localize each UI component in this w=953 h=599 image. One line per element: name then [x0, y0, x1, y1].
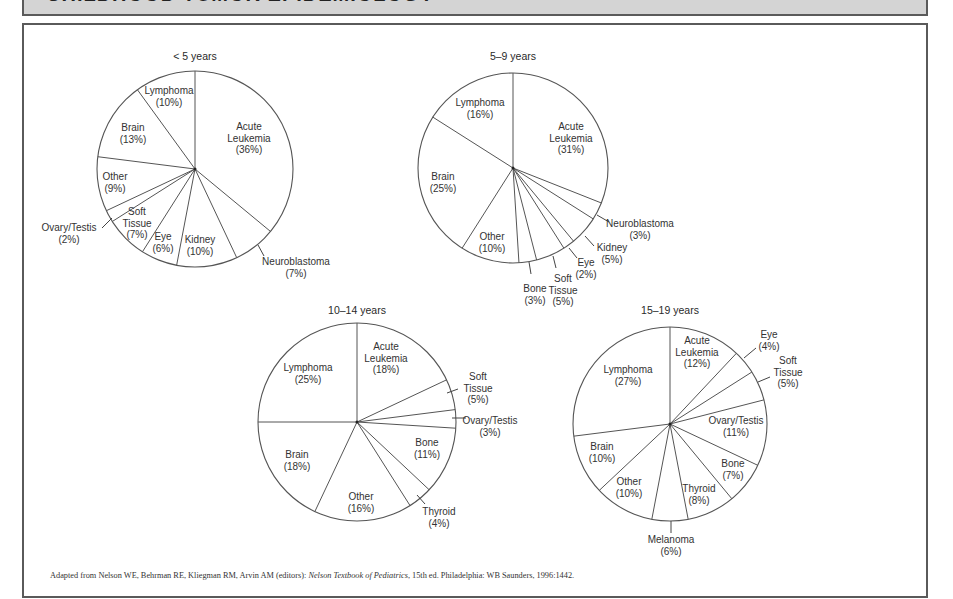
- pie-charts: < 5 yearsAcuteLeukemia(36%)Neuroblastoma…: [0, 0, 953, 599]
- slice-label: Thyroid(4%): [422, 506, 455, 529]
- slice-label: Neuroblastoma(7%): [262, 256, 330, 279]
- slice-label: Bone(11%): [414, 437, 440, 460]
- pie-center: [194, 168, 197, 171]
- slice-label: Eye(6%): [152, 231, 173, 254]
- citation-prefix: Adapted from Nelson WE, Behrman RE, Klie…: [50, 571, 308, 580]
- label-leader-line: [258, 245, 264, 256]
- slice-label: Other(16%): [348, 491, 375, 514]
- slice-label: Melanoma(6%): [648, 534, 695, 557]
- slice-label: Kidney(5%): [597, 242, 628, 265]
- pie-center: [669, 423, 672, 426]
- pie-title: 5–9 years: [490, 50, 536, 62]
- label-leader-line: [744, 348, 756, 358]
- pie-chart-under-5-years: < 5 yearsAcuteLeukemia(36%)Neuroblastoma…: [41, 50, 330, 279]
- slice-label: Other(9%): [102, 171, 128, 194]
- label-leader-line: [102, 218, 112, 228]
- pie-chart-10-14-years: 10–14 yearsAcuteLeukemia(18%)SoftTissue(…: [258, 304, 518, 529]
- slice-label: SoftTissue(5%): [773, 355, 803, 389]
- pie-chart-5-9-years: 5–9 yearsAcuteLeukemia(31%)Neuroblastoma…: [418, 50, 674, 307]
- label-leader-line: [569, 248, 577, 258]
- pie-chart-15-19-years: 15–19 yearsAcuteLeukemia(12%)Eye(4%)Soft…: [573, 304, 803, 557]
- slice-label: Bone(7%): [721, 458, 745, 481]
- slice-label: SoftTissue(5%): [463, 371, 493, 405]
- pie-center: [356, 421, 359, 424]
- slice-label: Bone(3%): [523, 283, 547, 306]
- pie-center: [512, 167, 515, 170]
- slice-label: Brain(18%): [284, 449, 311, 472]
- source-citation: Adapted from Nelson WE, Behrman RE, Klie…: [50, 571, 574, 580]
- citation-suffix: , 15th ed. Philadelphia: WB Saunders, 19…: [408, 571, 574, 580]
- label-leader-line: [758, 377, 770, 382]
- label-leader-line: [585, 236, 594, 246]
- slice-label: Eye(2%): [575, 257, 596, 280]
- slice-label: Brain(13%): [120, 122, 147, 145]
- citation-book-title: Nelson Textbook of Pediatrics: [308, 571, 407, 580]
- slice-label: Neuroblastoma(3%): [606, 218, 674, 241]
- slice-label: Ovary/Testis(3%): [462, 415, 517, 438]
- slice-label: Kidney(10%): [185, 234, 216, 257]
- slice-label: Brain(25%): [430, 171, 457, 194]
- slice-label: Eye(4%): [758, 329, 779, 352]
- pie-title: 10–14 years: [328, 304, 386, 316]
- pie-title: < 5 years: [173, 50, 216, 62]
- label-leader-line: [529, 262, 531, 274]
- label-leader-line: [553, 256, 556, 268]
- slice-label: Ovary/Testis(2%): [41, 222, 96, 245]
- slice-label: SoftTissue(5%): [548, 273, 578, 307]
- slice-label: Other(10%): [616, 476, 643, 499]
- slice-label: Other(10%): [479, 231, 506, 254]
- pie-title: 15–19 years: [641, 304, 699, 316]
- slice-label: Brain(10%): [589, 441, 616, 464]
